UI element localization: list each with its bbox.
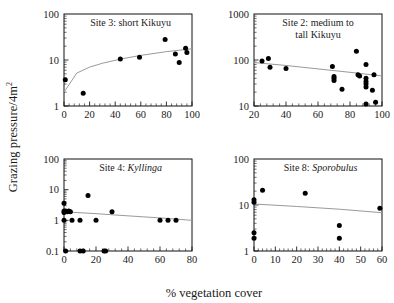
y-tick-label: 100 <box>43 154 59 165</box>
data-point <box>137 55 142 60</box>
x-tick-label: 60 <box>313 109 324 120</box>
x-tick-label: 80 <box>187 254 198 265</box>
x-axis-ticks <box>254 247 382 252</box>
data-point <box>252 230 257 235</box>
data-point <box>173 52 178 57</box>
data-point <box>252 236 257 241</box>
data-point <box>177 60 182 65</box>
panel-title: Site 4: Kyllinga <box>99 162 162 173</box>
panel-title: Site 2: medium totall Kikuyu <box>282 17 353 40</box>
data-point <box>266 56 271 61</box>
data-point <box>337 223 342 228</box>
data-point <box>78 218 83 223</box>
y-axis-label: Grazing pressure/4m2 <box>0 0 26 275</box>
x-tick-label: 60 <box>155 254 166 265</box>
data-point <box>118 57 123 62</box>
plot-site-2: 20406080100101001000Site 2: medium total… <box>224 6 386 128</box>
panel-site-2: 20406080100101001000Site 2: medium total… <box>224 6 386 128</box>
x-tick-label: 80 <box>161 109 172 120</box>
data-point <box>364 84 369 89</box>
y-tick-label: 100 <box>43 9 59 20</box>
data-point <box>373 100 378 105</box>
x-axis-label-text: % vegetation cover <box>166 286 262 300</box>
data-points <box>252 188 383 241</box>
trend-line <box>254 204 382 213</box>
y-tick-label: 10 <box>239 200 250 211</box>
data-point <box>354 49 359 54</box>
x-axis-label: % vegetation cover <box>0 286 394 301</box>
data-points <box>63 37 190 96</box>
y-tick-label: 1 <box>54 101 59 112</box>
x-tick-label: 60 <box>136 109 147 120</box>
panel-site-3: 020406080100110100Site 3: short Kikuyu <box>34 6 196 128</box>
trend-line <box>64 49 192 92</box>
x-tick-label: 0 <box>61 109 66 120</box>
data-point <box>337 236 342 241</box>
y-axis-ticks <box>64 160 69 251</box>
figure-root: Grazing pressure/4m2 020406080100110100S… <box>0 0 394 303</box>
data-point <box>268 65 273 70</box>
data-point <box>166 218 171 223</box>
data-point <box>330 64 335 69</box>
x-tick-label: 50 <box>355 254 366 265</box>
data-point <box>183 46 188 51</box>
x-axis-ticks <box>64 102 192 107</box>
data-point <box>377 206 382 211</box>
data-point <box>110 209 115 214</box>
data-point <box>81 91 86 96</box>
data-point <box>158 218 163 223</box>
data-point <box>163 37 168 42</box>
data-point <box>332 78 337 83</box>
x-tick-label: 40 <box>334 254 345 265</box>
x-tick-label: 30 <box>313 254 324 265</box>
plot-site-4: 0204060800.1110100Site 4: Kyllinga <box>34 151 196 273</box>
x-tick-label: 80 <box>345 109 356 120</box>
y-axis-ticks <box>254 16 259 106</box>
data-point <box>252 200 257 205</box>
x-tick-label: 100 <box>184 109 200 120</box>
data-points <box>62 193 179 254</box>
data-point <box>357 73 362 78</box>
x-tick-label: 40 <box>110 109 121 120</box>
x-tick-label: 10 <box>270 254 281 265</box>
y-tick-label: 10 <box>49 55 60 66</box>
data-point <box>303 191 308 196</box>
data-point <box>63 249 68 254</box>
trend-line <box>254 63 382 76</box>
x-tick-label: 0 <box>61 254 66 265</box>
panel-site-8: 0102030405060110100Site 8: Sporobulus <box>224 151 386 273</box>
data-point <box>284 66 289 71</box>
x-tick-label: 20 <box>249 109 260 120</box>
x-tick-label: 20 <box>291 254 302 265</box>
panel-site-4: 0204060800.1110100Site 4: Kyllinga <box>34 151 196 273</box>
x-tick-label: 100 <box>374 109 390 120</box>
y-tick-label: 0.1 <box>46 246 59 257</box>
data-point <box>103 249 108 254</box>
data-point <box>63 77 68 82</box>
x-tick-label: 60 <box>377 254 388 265</box>
y-tick-label: 10 <box>49 184 60 195</box>
data-point <box>364 102 369 107</box>
x-tick-label: 20 <box>84 109 95 120</box>
panel-title: Site 8: Sporobulus <box>284 162 358 173</box>
plot-site-8: 0102030405060110100Site 8: Sporobulus <box>224 151 386 273</box>
x-tick-label: 0 <box>251 254 256 265</box>
y-axis-ticks <box>64 16 69 106</box>
data-point <box>260 188 265 193</box>
y-tick-label: 1 <box>54 215 59 226</box>
x-axis-ticks <box>254 102 382 107</box>
data-point <box>62 201 67 206</box>
data-point <box>370 88 375 93</box>
y-tick-label: 100 <box>233 55 249 66</box>
x-tick-label: 40 <box>281 109 292 120</box>
data-point <box>68 209 73 214</box>
y-axis-label-text: Grazing pressure/4m <box>6 86 20 192</box>
data-point <box>174 218 179 223</box>
y-axis-label-superscript: 2 <box>5 82 14 86</box>
data-point <box>340 87 345 92</box>
data-point <box>62 218 67 223</box>
data-point <box>364 62 369 67</box>
x-tick-label: 20 <box>91 254 102 265</box>
trend-line <box>64 212 192 221</box>
plot-site-3: 020406080100110100Site 3: short Kikuyu <box>34 6 196 128</box>
